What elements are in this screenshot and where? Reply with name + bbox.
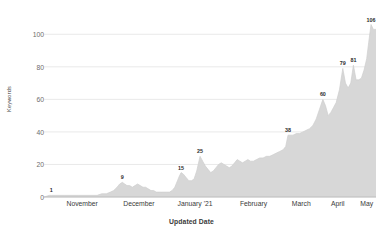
area-series-keywords [44,25,376,197]
x-axis-tick: November [66,200,97,207]
data-label: 25 [197,148,203,154]
x-axis-tick: February [240,200,267,207]
x-axis-tick: May [360,200,373,207]
data-label: 60 [320,91,326,97]
data-label: 81 [350,57,356,63]
x-axis-tick: December [123,200,154,207]
data-label: 1 [50,187,53,193]
data-label: 9 [121,174,124,180]
data-label: 79 [340,60,346,66]
x-axis-tick: January '21 [178,200,213,207]
x-axis-tick: March [292,200,311,207]
keywords-area-chart: Keywords 020406080100 NovemberDecemberJa… [0,0,383,238]
x-axis-title: Updated Date [0,218,383,225]
data-label: 38 [285,127,291,133]
data-label: 15 [178,165,184,171]
data-label: 106 [367,17,376,23]
x-axis-tick: April [331,200,345,207]
